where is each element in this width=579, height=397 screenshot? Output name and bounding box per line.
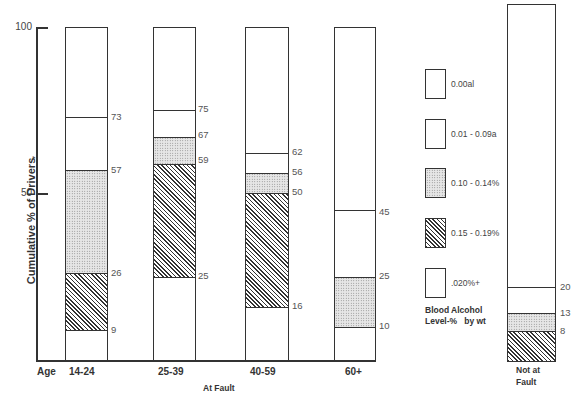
category-label-40-59: 40-59 bbox=[250, 366, 276, 377]
value-label: 10 bbox=[379, 320, 390, 331]
dotted-pattern bbox=[426, 169, 445, 197]
value-label: 73 bbox=[111, 111, 122, 122]
segment-020-plus bbox=[66, 330, 107, 360]
bar-not-at-fault bbox=[507, 4, 556, 362]
segment-010-014 bbox=[508, 313, 555, 331]
legend-swatch-020-plus bbox=[425, 268, 446, 298]
boundary-line bbox=[508, 331, 555, 333]
segment-010-014 bbox=[335, 277, 375, 327]
value-label: 13 bbox=[560, 307, 571, 318]
value-label: 50 bbox=[292, 186, 303, 197]
value-label: 45 bbox=[379, 206, 390, 217]
bar-25-39 bbox=[153, 27, 196, 361]
boundary-line bbox=[335, 277, 375, 279]
value-label: 9 bbox=[111, 324, 116, 335]
boundary-line bbox=[66, 330, 107, 332]
boundary-line bbox=[66, 273, 107, 275]
value-label: 57 bbox=[111, 164, 122, 175]
boundary-line bbox=[335, 210, 375, 212]
bar-40-59 bbox=[245, 27, 289, 361]
value-label: 20 bbox=[560, 281, 571, 292]
legend-label-015-019: 0.15 - 0.19% bbox=[451, 228, 499, 238]
segment-015-019 bbox=[508, 331, 555, 361]
value-label: 56 bbox=[292, 166, 303, 177]
legend-swatch-015-019 bbox=[425, 218, 446, 248]
y-tick-100 bbox=[36, 27, 48, 29]
y-tick-label-100: 100 bbox=[2, 21, 32, 32]
legend-title-line1: Blood Alcohol bbox=[425, 305, 482, 316]
segment-015-019 bbox=[154, 164, 195, 277]
value-label: 67 bbox=[198, 129, 209, 140]
legend-label-010-014: 0.10 - 0.14% bbox=[451, 178, 499, 188]
legend-swatch-000 bbox=[425, 69, 446, 99]
boundary-line bbox=[154, 110, 195, 112]
boundary-line bbox=[154, 137, 195, 139]
value-label: 62 bbox=[292, 146, 303, 157]
legend-label-001-009: 0.01 - 0.09a bbox=[451, 129, 496, 139]
boundary-line bbox=[246, 193, 288, 195]
boundary-line bbox=[508, 287, 555, 289]
value-label: 26 bbox=[111, 267, 122, 278]
category-label-25-39: 25-39 bbox=[158, 366, 184, 377]
category-label-14-24: 14-24 bbox=[69, 366, 95, 377]
hatched-pattern bbox=[426, 219, 445, 247]
age-axis-label: Age bbox=[37, 366, 56, 377]
value-label: 16 bbox=[292, 300, 303, 311]
segment-020-plus bbox=[246, 307, 288, 360]
value-label: 25 bbox=[198, 270, 209, 281]
value-label: 8 bbox=[560, 325, 565, 336]
bar-60-plus bbox=[334, 27, 376, 361]
value-label: 59 bbox=[198, 154, 209, 165]
not-at-fault-label-line2: Fault bbox=[516, 377, 536, 387]
boundary-line bbox=[246, 173, 288, 175]
segment-020-plus bbox=[335, 327, 375, 360]
boundary-line bbox=[154, 164, 195, 166]
segment-015-019 bbox=[246, 193, 288, 307]
value-label: 75 bbox=[198, 103, 209, 114]
legend-label-020-plus: .020%+ bbox=[451, 278, 480, 288]
segment-010-014 bbox=[246, 173, 288, 193]
boundary-line bbox=[66, 170, 107, 172]
segment-010-014 bbox=[66, 170, 107, 273]
legend-title-line2: Level-% by wt bbox=[425, 316, 486, 327]
segment-010-014 bbox=[154, 137, 195, 164]
legend-swatch-010-014 bbox=[425, 168, 446, 198]
segment-015-019 bbox=[66, 273, 107, 330]
value-label: 25 bbox=[379, 270, 390, 281]
boundary-line bbox=[335, 327, 375, 329]
y-axis-label: Cumulative % of Drivers bbox=[25, 146, 37, 296]
bar-14-24 bbox=[65, 27, 108, 361]
boundary-line bbox=[154, 277, 195, 279]
boundary-line bbox=[66, 117, 107, 119]
boundary-line bbox=[246, 153, 288, 155]
y-tick-50 bbox=[36, 193, 48, 195]
boundary-line bbox=[508, 313, 555, 315]
boundary-line bbox=[246, 307, 288, 309]
segment-020-plus bbox=[154, 277, 195, 360]
legend-label-000: 0.00al bbox=[451, 79, 474, 89]
at-fault-label: At Fault bbox=[203, 383, 235, 393]
category-label-60-plus: 60+ bbox=[345, 366, 362, 377]
legend-swatch-001-009 bbox=[425, 119, 446, 149]
not-at-fault-label-line1: Not at bbox=[516, 365, 540, 375]
